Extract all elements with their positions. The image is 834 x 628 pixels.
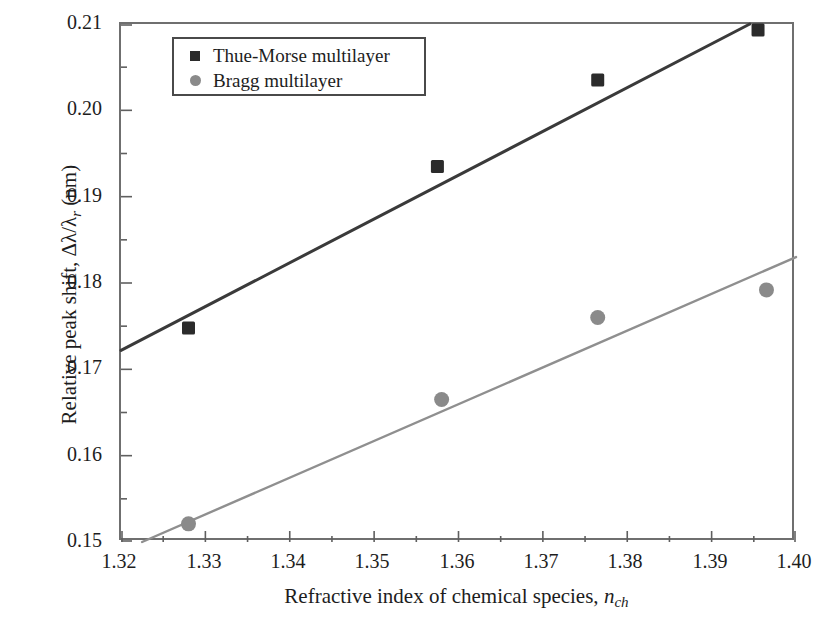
axis-ticks-layer (121, 25, 795, 542)
y-axis-title-subscript: r (68, 211, 84, 217)
y-axis-title-delta: Δλ/λ (57, 217, 81, 257)
data-point-bragg-1 (434, 392, 449, 407)
data-point-bragg-2 (590, 310, 605, 325)
square-marker-icon (186, 51, 204, 61)
data-point-bragg-3 (759, 282, 774, 297)
y-axis-title: Relative peak shift, Δλ/λr (nm) (57, 0, 84, 604)
x-axis-title-text: Refractive index of chemical species, (284, 584, 604, 608)
plot-canvas (121, 24, 796, 542)
x-tick-label-1.38: 1.38 (585, 551, 665, 571)
legend-entry-thue-morse: Thue-Morse multilayer (186, 43, 424, 68)
legend-box: Thue-Morse multilayer Bragg multilayer (172, 37, 426, 96)
x-tick-label-1.34: 1.34 (248, 551, 328, 571)
data-point-thue-morse-3 (752, 24, 765, 37)
x-tick-label-1.39: 1.39 (670, 551, 750, 571)
x-tick-label-1.40: 1.40 (754, 551, 834, 571)
x-tick-label-1.35: 1.35 (332, 551, 412, 571)
circle-marker-icon (186, 75, 204, 86)
fit-line-bragg (142, 257, 796, 542)
data-markers-layer (181, 24, 774, 532)
fit-lines-layer (121, 24, 796, 542)
data-point-thue-morse-1 (431, 160, 444, 173)
x-tick-label-1.37: 1.37 (501, 551, 581, 571)
y-axis-title-units: (nm) (57, 165, 81, 211)
x-axis-title-subscript: ch (614, 594, 628, 610)
x-axis-title-symbol: n (604, 584, 615, 608)
x-axis-title: Refractive index of chemical species, nc… (119, 584, 794, 611)
y-axis-title-text: Relative peak shift, (57, 256, 81, 424)
x-tick-label-1.36: 1.36 (417, 551, 497, 571)
legend-entry-bragg: Bragg multilayer (186, 68, 424, 93)
plot-area (119, 22, 794, 540)
x-tick-label-1.33: 1.33 (164, 551, 244, 571)
legend-label-thue-morse: Thue-Morse multilayer (213, 45, 390, 67)
chart-figure: 0.21 0.20 0.19 0.18 0.17 0.16 0.15 1.32 … (0, 0, 834, 628)
x-tick-label-1.32: 1.32 (79, 551, 159, 571)
data-point-bragg-0 (181, 516, 196, 531)
data-point-thue-morse-0 (182, 321, 195, 334)
data-point-thue-morse-2 (591, 74, 604, 87)
legend-label-bragg: Bragg multilayer (213, 70, 342, 92)
